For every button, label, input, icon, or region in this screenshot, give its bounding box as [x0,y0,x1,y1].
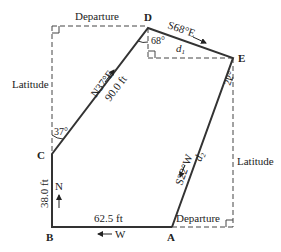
latitude-right-label: Latitude [237,155,274,167]
angle-label-e: 22° [222,70,237,87]
vertex-label-b: B [46,231,54,243]
right-angle-markers [52,26,233,227]
direction-ab: W [115,228,126,240]
vertex-label-c: C [37,149,45,161]
length-de: d1 [176,42,185,56]
right-angle-top-left [52,26,59,33]
angle-label-c: 37° [54,126,68,137]
right-angle-d [148,51,155,58]
vertex-label-a: A [167,231,175,243]
direction-bc: N [55,180,63,192]
angle-label-d: 68° [151,35,165,46]
departure-top-label: Departure [75,10,119,22]
departure-bottom-label: Departure [176,212,220,224]
length-ab: 62.5 ft [94,212,123,224]
vertex-label-d: D [144,11,152,23]
right-angle-bottom-right [226,220,233,227]
vertex-label-e: E [238,52,245,64]
latitude-left-label: Latitude [12,78,49,90]
arrow-de-icon [193,37,206,43]
angle-arc-d [138,41,148,42]
construction-lines [52,26,233,227]
traverse-diagram: D E C B A Departure Latitude Latitude De… [0,0,281,252]
length-bc: 38.0 ft [38,179,50,208]
